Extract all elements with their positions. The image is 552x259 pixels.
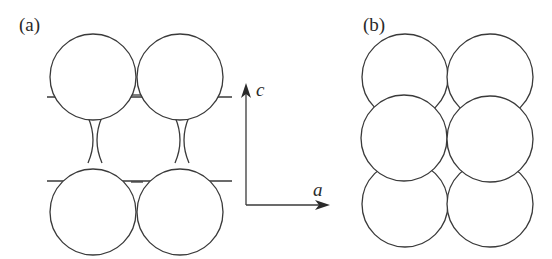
c-axis-label: c <box>256 79 265 100</box>
particle-a-bottom-left <box>50 169 136 255</box>
neck-right-a <box>175 117 180 163</box>
axes: c a <box>241 79 330 210</box>
particle-a-bottom-right <box>137 169 223 255</box>
neck-left-a <box>88 117 93 163</box>
panel-b-drawing <box>361 34 533 247</box>
particle-b-middle-right <box>447 96 533 182</box>
panel-a-drawing <box>47 34 232 255</box>
a-axis-label: a <box>313 179 323 200</box>
panel-a-label: (a) <box>19 14 40 36</box>
panel-b-label: (b) <box>363 14 385 36</box>
neck-left-b <box>97 117 102 163</box>
particle-a-top-right <box>137 34 223 120</box>
figure-canvas: (a) c a (b) <box>0 0 552 259</box>
particle-a-top-left <box>50 34 136 120</box>
neck-right-b <box>184 117 189 163</box>
particle-b-middle-left <box>361 95 447 181</box>
